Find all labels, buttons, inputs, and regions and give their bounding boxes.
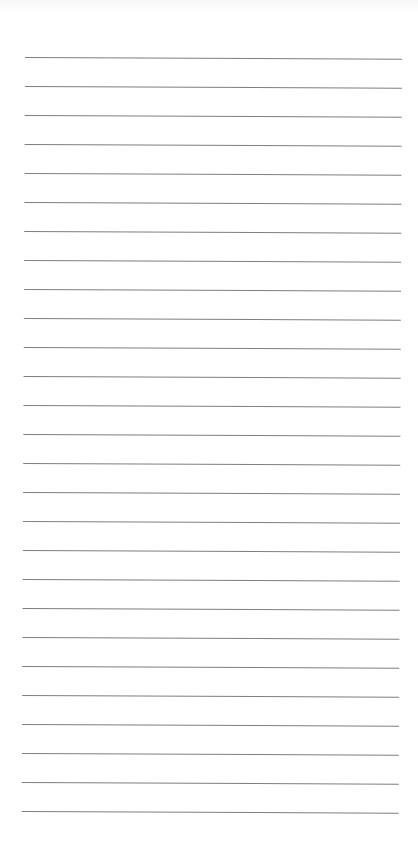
ruled-line	[24, 202, 401, 205]
ruled-line	[23, 463, 400, 466]
ruled-line	[24, 289, 401, 292]
ruled-line	[22, 782, 399, 785]
ruled-line	[25, 144, 402, 147]
ruled-lines	[22, 57, 402, 842]
ruled-line	[23, 405, 400, 408]
ruled-line	[23, 550, 400, 553]
ruled-line	[24, 260, 401, 263]
ruled-line	[24, 173, 401, 176]
lined-paper-page	[0, 0, 418, 852]
ruled-line	[22, 753, 399, 756]
ruled-line	[25, 57, 402, 60]
ruled-line	[24, 231, 401, 234]
ruled-line	[25, 115, 402, 118]
ruled-line	[23, 492, 400, 495]
ruled-line	[24, 318, 401, 321]
ruled-line	[22, 637, 399, 640]
ruled-line	[24, 376, 401, 379]
ruled-line	[22, 811, 399, 814]
ruled-line	[22, 724, 399, 727]
ruled-line	[22, 695, 399, 698]
ruled-line	[23, 521, 400, 524]
ruled-line	[23, 608, 400, 611]
page-top-edge	[0, 0, 418, 12]
ruled-line	[23, 434, 400, 437]
ruled-line	[25, 86, 402, 89]
ruled-line	[23, 579, 400, 582]
ruled-line	[24, 347, 401, 350]
ruled-line	[22, 666, 399, 669]
